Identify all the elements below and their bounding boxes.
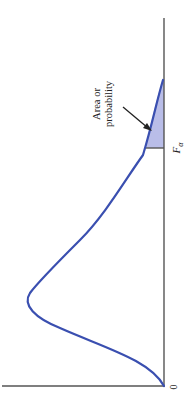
annotation-line-2: probability	[103, 80, 114, 127]
origin-label: 0	[168, 385, 179, 390]
f-distribution-figure: Area or probability Fα 0	[0, 0, 192, 418]
density-curve	[28, 80, 164, 386]
critical-value-label: Fα	[170, 142, 185, 155]
critical-value-sub: α	[176, 142, 185, 147]
svg-text:Fα: Fα	[170, 142, 185, 155]
annotation-line-1: Area or	[91, 88, 102, 120]
origin-text: 0	[168, 385, 179, 390]
annotation-label: Area or probability	[91, 80, 114, 127]
annotation-arrow-shaft	[123, 107, 148, 128]
chart-svg: Area or probability Fα 0	[0, 0, 192, 418]
